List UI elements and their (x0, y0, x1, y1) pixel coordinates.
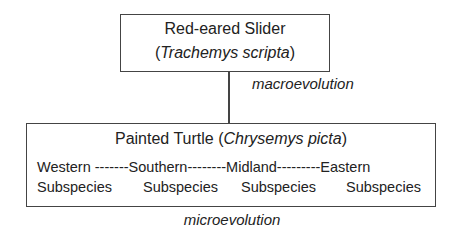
microevolution-label: microevolution (0, 211, 464, 228)
painted-turtle-node: Painted Turtle (Chrysemys picta) Western… (26, 123, 436, 207)
subspecies-western-label: Subspecies (37, 179, 112, 195)
close-paren: ) (342, 130, 347, 147)
close-paren: ) (290, 44, 295, 61)
subspecies-chain: Western -------Southern--------Midland--… (37, 159, 370, 175)
subspecies-midland-label: Subspecies (241, 179, 316, 195)
subspecies-southern-name: Southern (129, 159, 188, 175)
subspecies-eastern-label: Subspecies (346, 179, 421, 195)
red-eared-slider-node: Red-eared Slider (Trachemys scripta) (120, 14, 330, 72)
subspecies-southern-label: Subspecies (143, 179, 218, 195)
bottom-node-scientific-name: Chrysemys picta (223, 130, 341, 147)
subspecies-western-name: Western (37, 159, 91, 175)
bottom-node-common-name: Painted Turtle ( (115, 130, 224, 147)
top-node-scientific-name: Trachemys scripta (160, 44, 290, 61)
separator-dashes: -------- (187, 159, 226, 175)
connector-line (228, 72, 230, 124)
bottom-node-title: Painted Turtle (Chrysemys picta) (27, 130, 435, 148)
macroevolution-label: macroevolution (252, 75, 354, 92)
subspecies-midland-name: Midland (226, 159, 277, 175)
separator-dashes: ------- (91, 159, 129, 175)
top-node-scientific-line: (Trachemys scripta) (121, 44, 329, 62)
top-node-common-name: Red-eared Slider (121, 20, 329, 38)
separator-dashes: --------- (277, 159, 320, 175)
subspecies-eastern-name: Eastern (320, 159, 370, 175)
